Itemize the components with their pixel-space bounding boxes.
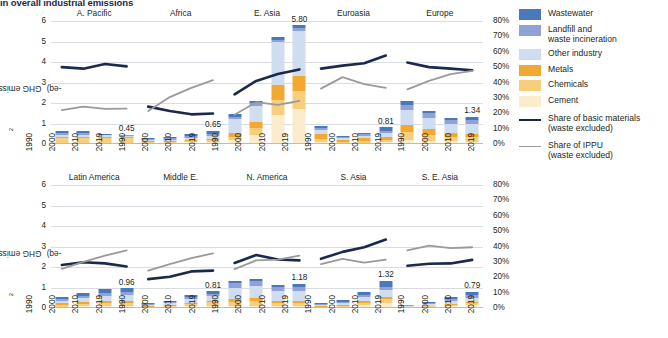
y-axis-label: GHG emissions (GtCO2-eq)	[2, 8, 16, 170]
legend-item-cement[interactable]: Cement	[519, 95, 668, 107]
line-share-ippu	[321, 259, 386, 264]
y-tick-left: 1	[41, 284, 46, 292]
x-tick-slot: 1990	[390, 131, 413, 171]
y-tick-right: 50%	[493, 63, 509, 71]
y-tick-right: 70%	[493, 196, 509, 204]
legend-item-share-of-basic-materials[interactable]: Share of basic materials(waste excluded)	[519, 113, 668, 134]
y-tick-left: 5	[41, 202, 46, 210]
y-axis-ticks-right-row-2: 80%70%60%50%40%30%20%10%0%	[485, 185, 515, 308]
x-tick-label: 1990	[24, 295, 33, 313]
x-label-panel: 1990200020102019	[203, 293, 296, 333]
x-label-panel: 1990200020102019	[17, 293, 110, 333]
x-tick-label: 2019	[94, 133, 103, 151]
line-share-ippu	[62, 107, 127, 111]
x-tick-label: 1990	[211, 295, 220, 313]
x-tick-label: 2019	[374, 295, 383, 313]
x-tick-slot: 1990	[17, 131, 40, 171]
line-share-basic-materials	[407, 63, 472, 71]
chart-figure: in overall industrial emissions GHG emis…	[0, 0, 668, 338]
legend-swatch-icon	[519, 80, 541, 91]
x-tick-slot: 2010	[343, 131, 366, 171]
x-tick-slot: 2019	[273, 131, 296, 171]
x-tick-label: 2010	[350, 133, 359, 151]
line-share-basic-materials	[148, 271, 213, 279]
x-tick-slot: 1990	[110, 131, 133, 171]
x-label-panel: 1990200020102019	[390, 131, 483, 171]
x-label-panel: 1990200020102019	[390, 293, 483, 333]
x-tick-label: 2000	[47, 295, 56, 313]
x-tick-slot: 1990	[297, 131, 320, 171]
y-tick-left: 4	[41, 222, 46, 230]
y-tick-right: 60%	[493, 212, 509, 220]
legend-label: Cement	[548, 95, 578, 106]
x-tick-slot: 1990	[297, 293, 320, 333]
x-tick-slot: 2000	[227, 131, 250, 171]
x-tick-slot: 2000	[227, 293, 250, 333]
x-tick-label: 1990	[397, 295, 406, 313]
legend-item-chemicals[interactable]: Chemicals	[519, 79, 668, 91]
line-share-basic-materials	[321, 240, 386, 259]
legend-swatch-icon	[519, 65, 541, 76]
chart-row-1: GHG emissions (GtCO2-eq) 6543210 80%70%6…	[0, 8, 515, 170]
x-tick-label: 2000	[420, 133, 429, 151]
legend-label: Landfill andwaste incineration	[548, 24, 617, 45]
x-label-panel: 1990200020102019	[297, 293, 390, 333]
panel-title: Europe	[397, 8, 483, 18]
y-tick-right: 10%	[493, 289, 509, 297]
x-tick-label: 1990	[117, 295, 126, 313]
legend-item-wastewater[interactable]: Wastewater	[519, 8, 668, 20]
legend-label: Other industry	[548, 48, 602, 59]
chart-row-2: GHG emissions (GtCO2-eq) 6543210 80%70%6…	[0, 170, 515, 338]
y-tick-left: 6	[41, 181, 46, 189]
legend-item-metals[interactable]: Metals	[519, 64, 668, 76]
x-tick-slot: 2019	[273, 293, 296, 333]
x-tick-label: 2000	[234, 133, 243, 151]
y-tick-right: 80%	[493, 181, 509, 189]
x-tick-label: 2000	[141, 133, 150, 151]
legend-swatch-icon	[519, 96, 541, 107]
legend-line-icon	[519, 146, 541, 147]
x-tick-label: 1990	[304, 295, 313, 313]
x-label-panel: 1990200020102019	[17, 131, 110, 171]
legend-item-other-industry[interactable]: Other industry	[519, 48, 668, 60]
y-tick-left: 5	[41, 38, 46, 46]
chart-legend: WastewaterLandfill andwaste incineration…	[519, 8, 668, 164]
x-label-panel: 1990200020102019	[203, 131, 296, 171]
legend-label: Metals	[548, 64, 573, 75]
plot-area-row-2: 6543210 80%70%60%50%40%30%20%10%0% Latin…	[34, 185, 515, 308]
line-share-basic-materials	[148, 107, 213, 115]
legend-label: Wastewater	[548, 8, 593, 19]
legend-item-landfill-and[interactable]: Landfill andwaste incineration	[519, 24, 668, 45]
line-overlay-row-2	[51, 185, 483, 308]
x-tick-label: 2010	[71, 133, 80, 151]
x-tick-slot: 2000	[134, 293, 157, 333]
panel-title: Africa	[137, 8, 223, 18]
x-tick-label: 2019	[280, 133, 289, 151]
y-tick-left: 4	[41, 58, 46, 66]
x-tick-label: 1990	[117, 133, 126, 151]
x-axis-labels-row-1: 1990200020102019199020002010201919902000…	[17, 131, 483, 171]
panel-title: Euroasia	[310, 8, 396, 18]
line-share-ippu	[407, 246, 472, 251]
x-tick-slot: 2000	[134, 131, 157, 171]
x-tick-label: 2010	[257, 133, 266, 151]
grid-area-row-1: A. Pacific0.45Africa0.65E. Asia5.80Euroa…	[51, 21, 483, 144]
x-tick-slot: 2010	[436, 293, 459, 333]
legend-item-share-of-ippu[interactable]: Share of IPPU(waste excluded)	[519, 140, 668, 161]
x-tick-label: 2010	[71, 295, 80, 313]
legend-label: Chemicals	[548, 79, 588, 90]
x-tick-slot: 2010	[343, 293, 366, 333]
y-tick-right: 80%	[493, 17, 509, 25]
legend-swatch-icon	[519, 9, 541, 20]
x-tick-slot: 2019	[367, 293, 390, 333]
y-tick-left: 2	[41, 263, 46, 271]
chart-title: in overall industrial emissions	[0, 0, 133, 8]
line-share-ippu	[148, 253, 213, 270]
x-tick-label: 1990	[24, 133, 33, 151]
line-overlay-row-1	[51, 21, 483, 144]
x-tick-label: 2000	[47, 133, 56, 151]
y-tick-right: 40%	[493, 79, 509, 87]
x-tick-label: 2010	[257, 295, 266, 313]
y-axis-ticks-left-row-2: 6543210	[34, 185, 48, 308]
y-axis-ticks-right-row-1: 80%70%60%50%40%30%20%10%0%	[485, 21, 515, 144]
